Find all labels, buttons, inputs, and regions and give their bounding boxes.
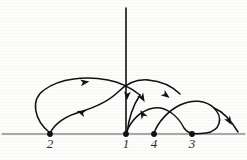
phase-portrait-figure: 2143	[0, 0, 247, 160]
point-label-3: 3	[184, 137, 200, 150]
arrow-upper-right	[80, 78, 90, 86]
point-label-1: 1	[118, 137, 134, 150]
lower-right-lobe	[154, 101, 220, 134]
lower-left-lobe	[126, 108, 192, 133]
left-crossing-to-four	[148, 80, 180, 94]
arrow-lobe-downright	[161, 90, 172, 101]
point-label-2: 2	[42, 137, 58, 150]
direction-arrowheads	[76, 78, 235, 127]
point-label-4: 4	[146, 137, 162, 150]
orbit-curves	[35, 78, 238, 134]
arrow-center-down	[123, 91, 131, 100]
